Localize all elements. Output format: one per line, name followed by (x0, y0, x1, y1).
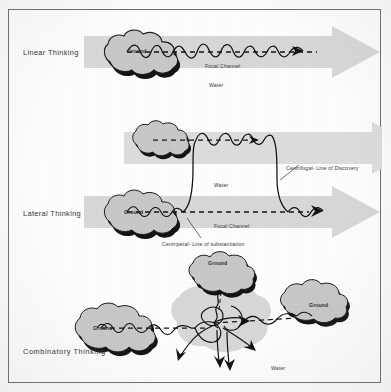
combinatory-arrowhead-south-a (214, 356, 225, 368)
figure-canvas: Linear Thinking Focal Channel Water Grou… (0, 0, 391, 392)
combinatory-arrowhead-south-b (224, 359, 235, 371)
section-label-combinatory: Combinatory Thinking (23, 347, 106, 356)
label-water-combinatory: Water (271, 365, 285, 371)
label-ground-combinatory-top: Ground (208, 260, 227, 266)
figure-frame: Linear Thinking Focal Channel Water Grou… (8, 9, 381, 383)
label-ground-combinatory-right: Ground (309, 302, 328, 308)
label-ground-combinatory-left: Ground (93, 325, 112, 331)
combinatory-graphics (9, 10, 382, 384)
panel-combinatory-thinking: Combinatory Thinking Water Ground Ground… (9, 10, 380, 382)
